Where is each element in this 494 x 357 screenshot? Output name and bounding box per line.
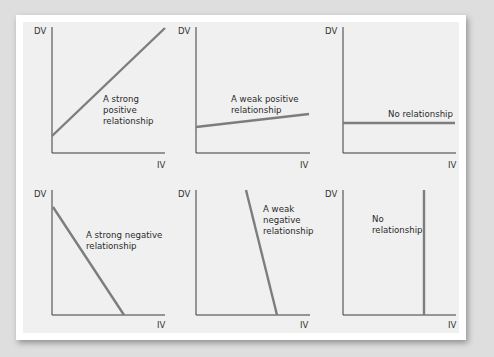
annotation-weak-positive: A weak positive relationship — [231, 94, 301, 115]
iv-label: IV — [300, 320, 309, 330]
panel-weak-positive-axes — [196, 27, 310, 153]
panel-no-relationship-v-axes — [343, 190, 456, 315]
annotation-weak-negative: A weak negative relationship — [263, 204, 314, 236]
dv-label: DV — [178, 189, 190, 199]
iv-label: IV — [448, 320, 457, 330]
iv-label: IV — [448, 160, 457, 170]
panel-strong-positive-axes — [52, 27, 165, 153]
iv-label: IV — [157, 160, 166, 170]
panel-no-relationship-h-axes — [343, 27, 456, 153]
annotation-strong-negative: A strong negative relationship — [86, 230, 165, 251]
iv-label: IV — [157, 320, 166, 330]
trend-line-weak-positive — [196, 114, 309, 127]
dv-label: DV — [178, 26, 190, 36]
trend-line-strong-negative — [53, 207, 124, 315]
dv-label: DV — [325, 26, 337, 36]
dv-label: DV — [34, 26, 46, 36]
annotation-no-relationship-horizontal: No relationship — [388, 109, 453, 119]
iv-label: IV — [300, 160, 309, 170]
dv-label: DV — [34, 189, 46, 199]
annotation-strong-positive: A strong positive relationship — [103, 94, 154, 126]
panel-strong-negative-axes — [52, 190, 165, 315]
annotation-no-relationship-vertical: No relationship — [372, 214, 423, 235]
relationship-diagram: DV IV DV IV DV IV DV IV DV IV DV IV A st… — [0, 0, 494, 357]
dv-label: DV — [325, 189, 337, 199]
